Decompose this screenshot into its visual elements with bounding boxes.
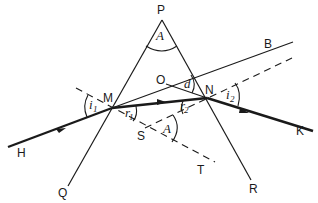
label-angle-d: d [184,76,191,91]
prism-face-PQ [68,20,162,186]
label-angle-A-S: A [162,121,171,136]
label-T: T [197,163,205,177]
label-B: B [264,37,272,51]
label-M: M [103,91,113,105]
label-Q: Q [58,186,67,200]
label-angle-i2-sub: 2 [230,94,235,104]
label-angle-A-apex: A [155,28,164,43]
label-N: N [205,83,214,97]
angle-arc-apex [146,46,177,51]
label-angle-r1-sub: 1 [129,112,134,122]
arrow-icon [157,99,166,105]
prism-face-PR [162,20,251,180]
label-angle-r2-sub: 2 [184,105,189,115]
prism-diagram: P M N O S Q R H K B T A A d i 1 r 1 r 2 … [0,0,318,203]
label-angle-i1-sub: 1 [93,104,98,114]
angle-arc-i2 [235,83,239,106]
angle-arc-i1 [85,95,88,117]
label-P: P [157,3,165,17]
label-O: O [156,73,165,87]
label-S: S [137,129,145,143]
label-H: H [17,146,26,160]
label-K: K [296,124,304,138]
angle-arc-A-at-S [172,115,177,142]
label-R: R [249,182,258,196]
